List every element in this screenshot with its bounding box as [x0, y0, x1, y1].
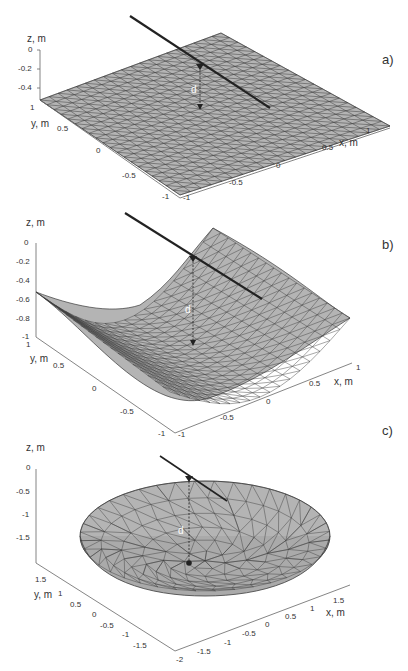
y-axis-label-c: y, m [34, 589, 52, 600]
y-tick: -1.5 [133, 641, 147, 650]
panel-c: z, m 0 -0.5 -1 -1.5 1.5 y, m 1 0.5 0 -0.… [16, 423, 393, 664]
z-tick: -0.6 [16, 295, 30, 304]
y-tick: 0.5 [70, 600, 82, 609]
x-axis-label-c: x, m [326, 607, 345, 618]
y-tick: -1 [158, 429, 166, 438]
x-tick: -1 [224, 638, 232, 647]
panel-label-c: c) [382, 423, 393, 438]
z-tick: -0.4 [18, 83, 32, 92]
distance-label-d: d [178, 525, 184, 536]
x-axis-label-a: x, m [339, 137, 358, 148]
y-tick: 0.5 [57, 124, 69, 133]
x-tick: 0 [276, 161, 281, 170]
panel-label-b: b) [382, 237, 394, 252]
x-tick: 1.5 [333, 596, 345, 605]
x-tick: 0 [265, 620, 270, 629]
y-tick: 0 [92, 384, 97, 393]
y-tick: -0.5 [100, 621, 114, 630]
z-tick: 0 [26, 463, 31, 472]
z-tick: -1 [22, 510, 30, 519]
z-axis-label-c: z, m [26, 442, 45, 453]
z-tick: -0.5 [16, 487, 30, 496]
x-tick: 1 [310, 604, 315, 613]
panel-a: z, m 0 -0.2 -0.4 1 y, m 0.5 0 -0.5 -1 -1… [18, 16, 394, 202]
y-tick: 1 [30, 103, 35, 112]
z-tick: -0.4 [16, 276, 30, 285]
x-tick: -0.5 [220, 413, 234, 422]
z-axis-label-b: z, m [26, 217, 45, 228]
x-tick: -2 [176, 655, 184, 664]
y-axis-label-b: y, m [30, 353, 48, 364]
x-tick: -0.5 [242, 629, 256, 638]
z-tick: -0.2 [18, 64, 32, 73]
y-tick: 0.5 [53, 361, 65, 370]
y-axis-label-a: y, m [31, 118, 49, 129]
x-tick: 0.5 [322, 143, 334, 152]
panel-b: z, m 0 -0.2 -0.4 -0.6 -0.8 -1 1 y, m 0.5… [16, 213, 394, 439]
x-tick: 0.5 [309, 379, 321, 388]
z-tick: -1.5 [16, 533, 30, 542]
x-axis-label-b: x, m [334, 376, 353, 387]
x-tick: 1 [356, 363, 361, 372]
distance-label-d: d [185, 304, 191, 315]
y-tick: -1 [162, 192, 170, 201]
x-tick: -1 [183, 193, 191, 202]
y-tick: 1.5 [35, 575, 47, 584]
y-tick: -0.5 [120, 407, 134, 416]
y-tick: 1 [58, 589, 63, 598]
x-tick: 0 [266, 397, 271, 406]
y-tick: -0.5 [122, 171, 136, 180]
z-axis-label-a: z, m [27, 33, 46, 44]
x-tick: 1 [366, 126, 371, 135]
figure-canvas: z, m 0 -0.2 -0.4 1 y, m 0.5 0 -0.5 -1 -1… [0, 0, 408, 671]
y-tick: -1 [122, 630, 130, 639]
x-tick: -1 [178, 430, 186, 439]
x-tick: 0.5 [285, 612, 297, 621]
z-tick: 0 [28, 45, 33, 54]
y-tick: 0 [96, 146, 101, 155]
panel-label-a: a) [382, 52, 394, 67]
distance-label-d: d [191, 84, 197, 95]
x-tick: -1.5 [197, 647, 211, 656]
z-tick: -0.8 [16, 314, 30, 323]
z-tick: -0.2 [16, 257, 30, 266]
y-tick: 1 [26, 340, 31, 349]
x-tick: -0.5 [229, 178, 243, 187]
z-tick: 0 [24, 238, 29, 247]
y-tick: 0 [92, 610, 97, 619]
